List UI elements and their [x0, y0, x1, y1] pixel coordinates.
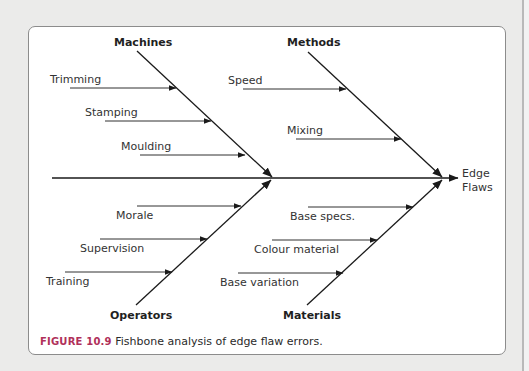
category-label-methods: Methods	[287, 36, 341, 49]
category-label-operators: Operators	[110, 309, 173, 322]
bone-methods	[308, 52, 442, 177]
category-materials: Materials Base specs. Colour material Ba…	[220, 180, 442, 322]
category-label-machines: Machines	[114, 36, 173, 49]
cause-morale: Morale	[116, 209, 154, 222]
effect: Edge Flaws	[462, 167, 493, 194]
cause-mixing: Mixing	[287, 124, 323, 137]
cause-stamping: Stamping	[85, 106, 138, 119]
category-methods: Methods Speed Mixing	[228, 36, 442, 177]
figure-caption-text: Fishbone analysis of edge flaw errors.	[115, 335, 322, 348]
cause-trimming: Trimming	[49, 73, 101, 86]
effect-label-line2: Flaws	[462, 181, 493, 194]
fishbone-diagram: Machines Trimming Stamping Moulding Meth…	[0, 0, 529, 371]
cause-speed: Speed	[228, 74, 262, 87]
effect-label-line1: Edge	[462, 167, 490, 180]
figure-number: FIGURE 10.9	[40, 336, 112, 347]
cause-base-specs: Base specs.	[290, 210, 355, 223]
cause-moulding: Moulding	[121, 140, 171, 153]
cause-supervision: Supervision	[80, 242, 144, 255]
figure-caption: FIGURE 10.9 Fishbone analysis of edge fl…	[40, 335, 323, 348]
bone-machines	[137, 51, 272, 177]
cause-training: Training	[45, 275, 89, 288]
category-operators: Operators Morale Supervision Training	[45, 180, 271, 322]
category-machines: Machines Trimming Stamping Moulding	[49, 36, 272, 177]
cause-colour-material: Colour material	[254, 243, 339, 256]
category-label-materials: Materials	[283, 309, 341, 322]
cause-base-variation: Base variation	[220, 276, 299, 289]
